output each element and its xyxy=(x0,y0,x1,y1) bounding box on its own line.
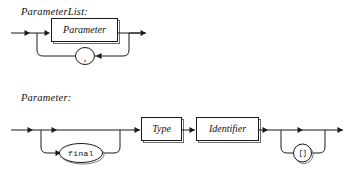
brackets-oval-label: [] xyxy=(298,149,306,157)
entry-arrow-icon-2 xyxy=(28,127,34,133)
parameter-box-label: Parameter xyxy=(62,24,106,35)
identifier-entry-arrow-icon xyxy=(190,127,196,133)
identifier-box-label: Identifier xyxy=(208,123,246,134)
bypass-arrow-icon xyxy=(52,127,58,133)
final-oval-label: final xyxy=(68,149,94,158)
type-entry-arrow-icon xyxy=(135,127,141,133)
bracket-bypass-arrow-icon xyxy=(298,127,304,133)
entry-arrow-icon xyxy=(25,30,31,36)
diagram-canvas: ParameterList: Parameter , Para xyxy=(0,0,354,177)
diagram-title-parameter-list: ParameterList: xyxy=(20,6,88,17)
exit-arrow-icon-2 xyxy=(338,127,344,133)
final-branch-out-rail xyxy=(101,130,120,153)
comma-oval-label: , xyxy=(84,52,87,63)
diagram-parameter-list: ParameterList: Parameter , xyxy=(0,0,354,88)
loop-back-arrow-icon xyxy=(96,53,102,59)
box-entry-arrow-icon xyxy=(45,30,51,36)
post-identifier-arrow-icon xyxy=(263,127,269,133)
type-box-label: Type xyxy=(152,123,171,134)
diagram-parameter: Parameter: final Type Identifier xyxy=(0,85,354,177)
final-branch-in-rail xyxy=(41,130,61,153)
bracket-loop-right-rail xyxy=(310,130,325,153)
exit-arrow-icon xyxy=(141,30,147,36)
diagram-title-parameter: Parameter: xyxy=(20,92,71,103)
